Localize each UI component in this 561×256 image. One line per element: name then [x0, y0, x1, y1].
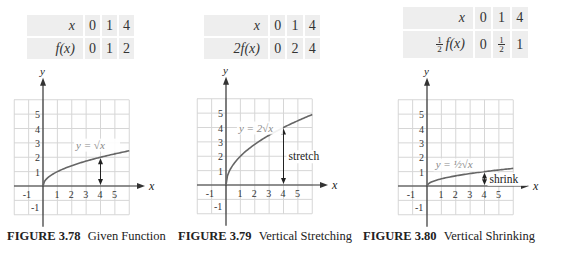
svg-text:3: 3	[35, 138, 40, 149]
y-axis-arrow-icon	[223, 77, 229, 85]
axes: xy	[197, 64, 338, 226]
table-row-half-fx: 12 f(x) 0 12 1	[403, 31, 528, 58]
fraction-one-half: 12	[498, 36, 505, 53]
svg-text:-1: -1	[31, 202, 39, 213]
tick-labels: -112345-112345	[407, 109, 501, 213]
svg-text:2: 2	[218, 151, 223, 162]
cell: 4	[512, 7, 528, 29]
cell: 0	[475, 31, 491, 58]
svg-text:1: 1	[438, 189, 443, 200]
svg-text:3: 3	[266, 188, 271, 199]
equation-label: y = √x	[75, 139, 105, 151]
cell: 0	[475, 7, 491, 29]
figure-caption: FIGURE 3.79Vertical Stretching	[178, 229, 352, 244]
figure-title: Vertical Shrinking	[444, 229, 535, 243]
figure-number: FIGURE 3.79	[178, 229, 252, 243]
figure-title: Vertical Stretching	[259, 229, 352, 243]
svg-text:-1: -1	[206, 188, 214, 199]
x-axis-arrow-icon	[521, 183, 529, 189]
figure-number: FIGURE 3.78	[7, 229, 81, 243]
cell: 1	[493, 7, 509, 29]
y-axis-arrow-icon	[424, 78, 430, 86]
svg-text:2: 2	[252, 188, 257, 199]
function-curve	[226, 115, 312, 185]
x-axis-arrow-icon	[320, 182, 328, 188]
cell: 4	[305, 38, 320, 59]
svg-text:-1: -1	[23, 189, 31, 200]
grid	[197, 99, 312, 214]
x-axis-label: x	[331, 178, 338, 192]
svg-text:5: 5	[419, 109, 424, 120]
svg-text:2: 2	[419, 152, 424, 163]
svg-text:5: 5	[35, 109, 40, 120]
svg-text:1: 1	[35, 167, 40, 178]
svg-text:5: 5	[295, 188, 300, 199]
svg-text:-1: -1	[214, 201, 222, 212]
svg-text:4: 4	[281, 188, 286, 199]
svg-text:4: 4	[482, 189, 487, 200]
y-axis-arrow-icon	[40, 78, 46, 86]
svg-text:-1: -1	[407, 189, 415, 200]
table-row-2fx: 2f(x) 0 2 4	[204, 38, 320, 59]
tick-labels: -112345-112345	[23, 109, 117, 213]
row-header-x: x	[204, 15, 268, 36]
axes: xy	[398, 65, 539, 227]
annotation-label: stretch	[289, 150, 320, 162]
cell: 1	[287, 15, 302, 36]
cell: 4	[305, 15, 320, 36]
svg-text:5: 5	[496, 189, 501, 200]
table-row-x: x 0 1 4	[204, 15, 320, 36]
svg-text:1: 1	[419, 167, 424, 178]
svg-text:2: 2	[69, 189, 74, 200]
cell: 0	[270, 15, 285, 36]
cell: 1	[512, 31, 528, 58]
y-axis-label: y	[222, 64, 228, 76]
figure-title: Given Function	[88, 229, 166, 243]
y-axis-label: y	[39, 65, 45, 77]
svg-text:4: 4	[35, 124, 40, 135]
svg-text:1: 1	[54, 189, 59, 200]
svg-text:3: 3	[419, 138, 424, 149]
value-table: x 0 1 4 2f(x) 0 2 4	[202, 13, 322, 61]
row-header-label: f(x)	[446, 36, 465, 51]
function-curve	[427, 168, 513, 186]
row-header-2fx: 2f(x)	[204, 38, 268, 59]
y-axis-label: y	[423, 65, 429, 77]
annotation-label: shrink	[490, 173, 519, 185]
graph: xy-112345-112345y = √x	[0, 0, 185, 230]
double-arrow-icon	[482, 173, 487, 185]
svg-text:5: 5	[112, 189, 117, 200]
cell: 2	[287, 38, 302, 59]
svg-text:5: 5	[218, 108, 223, 119]
row-header-half-fx: 12 f(x)	[403, 31, 473, 58]
svg-text:1: 1	[237, 188, 242, 199]
svg-text:4: 4	[218, 123, 223, 134]
svg-text:3: 3	[218, 137, 223, 148]
figure-caption: FIGURE 3.78Given Function	[7, 229, 166, 244]
x-axis-label: x	[148, 179, 155, 193]
equation-label: y = ½√x	[435, 158, 473, 170]
cell: 12	[493, 31, 509, 58]
table-row-x: x 0 1 4	[403, 7, 528, 29]
cell: 0	[270, 38, 285, 59]
svg-text:2: 2	[453, 189, 458, 200]
svg-text:3: 3	[83, 189, 88, 200]
svg-text:2: 2	[35, 152, 40, 163]
x-axis-arrow-icon	[137, 183, 145, 189]
x-axis-label: x	[532, 179, 539, 193]
svg-text:3: 3	[467, 189, 472, 200]
value-table: x 0 1 4 12 f(x) 0 12 1	[401, 5, 530, 60]
figure-number: FIGURE 3.80	[363, 229, 437, 243]
svg-text:4: 4	[419, 124, 424, 135]
figure-3-78: x 0 1 4 f(x) 0 1 2 xy-112345-112345y = √…	[0, 0, 185, 256]
fraction-one-half: 12	[436, 36, 443, 53]
row-header-x: x	[403, 7, 473, 29]
equation-label: y = 2√x	[238, 122, 273, 134]
svg-text:-1: -1	[415, 202, 423, 213]
svg-text:4: 4	[98, 189, 103, 200]
tick-labels: -112345-112345	[206, 108, 300, 212]
figure-caption: FIGURE 3.80Vertical Shrinking	[363, 229, 535, 244]
grid	[398, 100, 513, 215]
svg-text:1: 1	[218, 166, 223, 177]
double-arrow-icon	[281, 129, 286, 185]
